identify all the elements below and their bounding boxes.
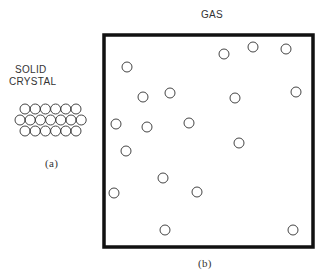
crystal-atom bbox=[20, 126, 30, 136]
crystal-atom bbox=[51, 104, 61, 114]
gas-particle bbox=[111, 119, 121, 129]
crystal-atom bbox=[25, 115, 35, 125]
gas-particle bbox=[121, 146, 131, 156]
gas-particle bbox=[109, 188, 119, 198]
gas-particle bbox=[160, 225, 170, 235]
crystal-atom bbox=[51, 126, 61, 136]
crystal-atom bbox=[40, 126, 50, 136]
crystal-atom bbox=[15, 115, 25, 125]
crystal-atom bbox=[46, 115, 56, 125]
crystal-atom bbox=[71, 104, 81, 114]
gas-particle bbox=[165, 88, 175, 98]
gas-particles bbox=[109, 42, 301, 235]
gas-particle bbox=[219, 49, 229, 59]
states-of-matter-diagram bbox=[0, 0, 330, 280]
gas-particle bbox=[138, 92, 148, 102]
gas-particle bbox=[234, 138, 244, 148]
gas-particle bbox=[142, 122, 152, 132]
gas-particle bbox=[288, 225, 298, 235]
crystal-atom bbox=[61, 126, 71, 136]
crystal-atom bbox=[56, 115, 66, 125]
gas-particle bbox=[122, 62, 132, 72]
crystal-atom bbox=[30, 104, 40, 114]
gas-particle bbox=[281, 44, 291, 54]
crystal-atom bbox=[35, 115, 45, 125]
crystal-atom bbox=[30, 126, 40, 136]
gas-particle bbox=[291, 87, 301, 97]
crystal-atom bbox=[61, 104, 71, 114]
gas-particle bbox=[184, 118, 194, 128]
solid-crystal-lattice bbox=[15, 104, 86, 136]
crystal-atom bbox=[40, 104, 50, 114]
crystal-atom bbox=[66, 115, 76, 125]
crystal-atom bbox=[71, 126, 81, 136]
crystal-atom bbox=[20, 104, 30, 114]
gas-particle bbox=[158, 173, 168, 183]
gas-container-box bbox=[104, 35, 313, 247]
gas-particle bbox=[192, 187, 202, 197]
crystal-atom bbox=[76, 115, 86, 125]
gas-particle bbox=[230, 93, 240, 103]
gas-particle bbox=[248, 42, 258, 52]
